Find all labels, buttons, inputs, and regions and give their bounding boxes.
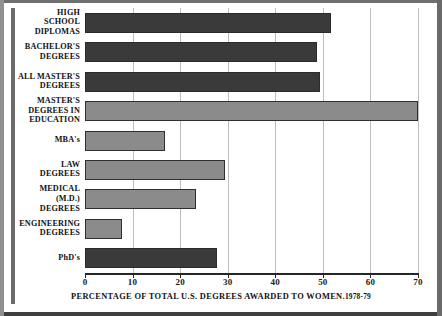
x-axis-caption-text: PERCENTAGE OF TOTAL U.S. DEGREES AWARDED… xyxy=(71,292,345,301)
bar-1 xyxy=(85,42,317,62)
category-label-2: ALL MASTER'SDEGREES xyxy=(2,72,80,91)
category-label-column: HIGHSCHOOLDIPLOMASBACHELOR'SDEGREESALL M… xyxy=(0,8,80,273)
frame-right-border xyxy=(437,0,442,316)
x-axis-tick-label-50: 50 xyxy=(318,277,327,287)
bar-7 xyxy=(85,219,122,239)
gridline-60 xyxy=(370,8,371,273)
x-axis-caption-year: 1978-79 xyxy=(345,292,371,301)
bar-2 xyxy=(85,72,320,92)
category-label-1: BACHELOR'SDEGREES xyxy=(2,42,80,61)
category-label-7: ENGINEERINGDEGREES xyxy=(2,219,80,238)
bar-0 xyxy=(85,13,331,33)
x-axis-tick-label-30: 30 xyxy=(223,277,232,287)
gridline-50 xyxy=(323,8,324,273)
x-axis-tick-label-70: 70 xyxy=(413,277,422,287)
x-axis-tick-label-40: 40 xyxy=(271,277,280,287)
gridline-70 xyxy=(418,8,419,273)
frame-bottom-border xyxy=(0,312,442,316)
category-label-6: MEDICAL(M.D.)DEGREES xyxy=(2,184,80,213)
category-label-8: PhD's xyxy=(2,253,80,263)
x-axis-caption: PERCENTAGE OF TOTAL U.S. DEGREES AWARDED… xyxy=(0,292,442,301)
bar-3 xyxy=(85,101,418,121)
category-label-4: MBA's xyxy=(2,135,80,145)
category-label-3: MASTER'SDEGREES INEDUCATION xyxy=(2,96,80,125)
category-label-5: LAWDEGREES xyxy=(2,160,80,179)
bar-8 xyxy=(85,248,217,268)
frame-top-border xyxy=(0,0,442,3)
category-label-0: HIGHSCHOOLDIPLOMAS xyxy=(2,8,80,37)
x-axis-tick-label-60: 60 xyxy=(366,277,375,287)
bar-5 xyxy=(85,160,225,180)
chart-page: HIGHSCHOOLDIPLOMASBACHELOR'SDEGREESALL M… xyxy=(0,0,442,316)
bar-6 xyxy=(85,189,196,209)
x-axis-tick-label-20: 20 xyxy=(175,277,184,287)
plot-area xyxy=(85,8,418,273)
x-axis-tick-label-10: 10 xyxy=(128,277,137,287)
x-axis-tick-label-0: 0 xyxy=(83,277,88,287)
x-axis-line xyxy=(85,273,419,275)
bar-4 xyxy=(85,131,165,151)
